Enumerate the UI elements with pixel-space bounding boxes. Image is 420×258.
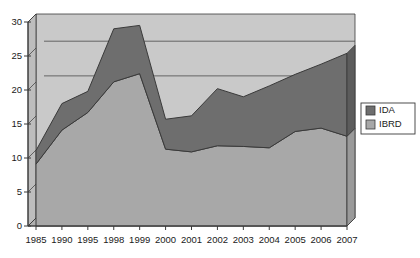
chart-container: 051015202530 198519901995199819992000200… (0, 0, 420, 258)
end-cap-ibrd (347, 128, 355, 226)
x-tick-label-2007: 2007 (336, 234, 357, 245)
legend-swatch-ibrd (366, 120, 375, 129)
x-tick-label-1998: 1998 (103, 234, 124, 245)
y-tick-label-0: 0 (17, 220, 22, 231)
x-tick-label-2001: 2001 (181, 234, 202, 245)
x-tick-label-2000: 2000 (155, 234, 176, 245)
y-tick-label-4: 20 (11, 84, 22, 95)
x-tick-label-2004: 2004 (259, 234, 280, 245)
x-tick-label-1995: 1995 (77, 234, 98, 245)
series-end-caps (347, 45, 355, 226)
chart-legend: IDAIBRD (361, 103, 415, 134)
x-tick-label-1985: 1985 (25, 234, 46, 245)
x-tick-label-1990: 1990 (51, 234, 72, 245)
y-tick-label-3: 15 (11, 118, 22, 129)
x-tick-label-1999: 1999 (129, 234, 150, 245)
y-tick-label-5: 25 (11, 50, 22, 61)
x-tick-label-2005: 2005 (285, 234, 306, 245)
legend-label-ibrd: IBRD (379, 118, 402, 129)
x-tick-label-2003: 2003 (233, 234, 254, 245)
stacked-area-chart: 051015202530 198519901995199819992000200… (0, 0, 420, 258)
y-tick-label-2: 10 (11, 152, 22, 163)
x-tick-label-2002: 2002 (207, 234, 228, 245)
end-cap-ida (347, 45, 355, 136)
legend-swatch-ida (366, 106, 375, 115)
y-tick-label-1: 5 (17, 186, 22, 197)
y-tick-label-6: 30 (11, 16, 22, 27)
legend-label-ida: IDA (379, 104, 396, 115)
x-tick-label-2006: 2006 (311, 234, 332, 245)
